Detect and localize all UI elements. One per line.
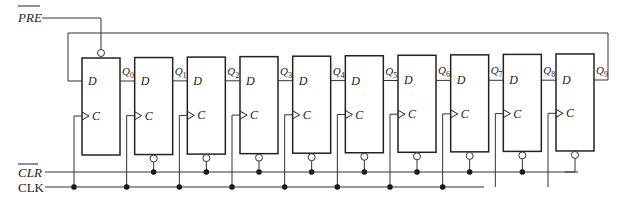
c-input-label: C: [197, 108, 206, 122]
clock-wire: [495, 114, 503, 187]
d-input-label: D: [140, 74, 150, 88]
clock-wire: [232, 115, 240, 187]
clock-wire: [179, 115, 187, 187]
d-input-label: D: [245, 74, 255, 88]
clock-wire: [74, 116, 82, 187]
clock-wire: [443, 114, 451, 187]
preset-label: PRE: [17, 10, 42, 25]
d-input-label: D: [561, 73, 571, 87]
q-output-label: Q4: [333, 65, 345, 80]
flipflop-box: [240, 57, 278, 154]
clear-label: CLR: [18, 165, 42, 180]
c-input-label: C: [513, 107, 522, 121]
d-input-label: D: [403, 73, 413, 87]
flipflop-box: [451, 55, 489, 152]
preset-bubble: [98, 50, 105, 57]
q-output-label: Q9: [596, 64, 608, 79]
c-input-label: C: [408, 107, 417, 121]
d-input-label: D: [456, 73, 466, 87]
c-input-label: C: [92, 109, 101, 123]
flipflop-9: DCQ9: [548, 54, 608, 187]
flipflop-box: [293, 56, 331, 153]
clear-bubble: [466, 152, 473, 159]
c-input-label: C: [250, 108, 259, 122]
clear-bubble: [256, 154, 263, 161]
d-input-label: D: [87, 74, 97, 88]
clear-bubble: [519, 152, 526, 159]
flipflop-box: [187, 57, 225, 154]
d-input-label: D: [192, 74, 202, 88]
q-output-label: Q2: [227, 65, 239, 80]
q-output-label: Q1: [175, 65, 187, 80]
q-output-label: Q6: [438, 64, 450, 79]
flipflop-8: DCQ8: [495, 54, 556, 187]
c-input-label: C: [566, 106, 575, 120]
q-output-label: Q0: [122, 65, 134, 80]
c-input-label: C: [355, 108, 364, 122]
c-input-label: C: [303, 108, 312, 122]
flipflop-box: [82, 58, 120, 155]
c-input-label: C: [461, 107, 470, 121]
d-input-label: D: [350, 74, 360, 88]
flipflop-box: [503, 54, 541, 151]
q-output-label: Q3: [280, 65, 292, 80]
clock-wire: [285, 115, 293, 187]
flipflop-box: [398, 55, 436, 152]
q-output-label: Q5: [385, 65, 397, 80]
d-input-label: D: [298, 74, 308, 88]
clear-bubble: [308, 154, 315, 161]
clock-wire: [548, 113, 556, 187]
clear-bubble: [150, 155, 157, 162]
clock-wire: [390, 114, 398, 187]
ring-counter-diagram: DCQ0DCQ1DCQ2DCQ3DCQ4DCQ5DCQ6DCQ7DCQ8DCQ9…: [0, 0, 624, 203]
q-output-label: Q8: [543, 64, 555, 79]
flipflop-box: [135, 58, 173, 155]
clear-bubble: [572, 151, 579, 158]
d-input-label: D: [508, 73, 518, 87]
clear-bubble: [361, 153, 368, 160]
clock-wire: [337, 115, 345, 188]
clock-label: CLK: [18, 180, 45, 195]
flipflop-box: [556, 54, 594, 151]
clear-bubble: [414, 153, 421, 160]
clear-bubble: [203, 155, 210, 162]
c-input-label: C: [145, 109, 154, 123]
flipflop-0: DCQ0: [71, 58, 134, 190]
flipflop-box: [345, 56, 383, 153]
q-output-label: Q7: [491, 64, 503, 79]
clock-wire: [127, 116, 135, 187]
